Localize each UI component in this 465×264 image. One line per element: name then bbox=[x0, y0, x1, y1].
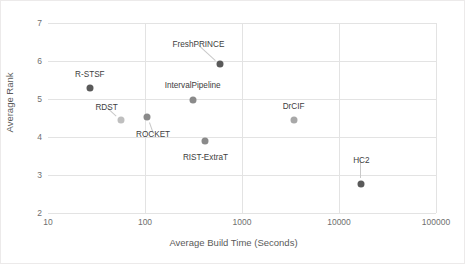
data-point bbox=[144, 114, 151, 121]
data-point bbox=[217, 61, 224, 68]
gridline-vertical bbox=[436, 23, 437, 213]
data-point bbox=[290, 117, 297, 124]
chart-container: R-STSFRDSTROCKETIntervalPipelineFreshPRI… bbox=[0, 0, 465, 264]
y-tick-label: 2 bbox=[2, 208, 42, 218]
x-axis-title: Average Build Time (Seconds) bbox=[1, 237, 465, 248]
gridline-vertical bbox=[242, 23, 243, 213]
data-point-label: RIST-ExtraT bbox=[183, 152, 228, 161]
data-point-label: RDST bbox=[95, 102, 117, 111]
y-tick-label: 7 bbox=[2, 18, 42, 28]
data-point bbox=[202, 137, 209, 144]
y-tick-label: 3 bbox=[2, 170, 42, 180]
x-tick-label: 100 bbox=[138, 217, 152, 227]
data-point bbox=[358, 180, 365, 187]
data-point bbox=[189, 96, 196, 103]
data-point-label: IntervalPipeline bbox=[165, 80, 221, 89]
data-point-label: R-STSF bbox=[75, 70, 105, 79]
data-point-label: FreshPRINCE bbox=[173, 40, 225, 49]
data-point bbox=[117, 116, 124, 123]
y-axis-title: Average Rank bbox=[4, 43, 15, 163]
gridline-horizontal bbox=[48, 213, 436, 214]
data-point-label: ROCKET bbox=[136, 130, 170, 139]
x-tick-label: 100000 bbox=[422, 217, 450, 227]
x-tick-label: 10 bbox=[43, 217, 52, 227]
x-tick-label: 1000 bbox=[233, 217, 252, 227]
plot-area: R-STSFRDSTROCKETIntervalPipelineFreshPRI… bbox=[48, 23, 436, 213]
data-point-label: HC2 bbox=[353, 155, 369, 164]
gridline-vertical bbox=[339, 23, 340, 213]
x-tick-label: 10000 bbox=[327, 217, 351, 227]
data-point-label: DrCIF bbox=[283, 102, 305, 111]
data-point bbox=[86, 85, 93, 92]
